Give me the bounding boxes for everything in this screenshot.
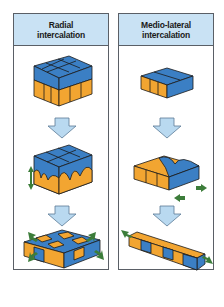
panel-header: Medio-lateralintercalation	[119, 14, 213, 46]
two-row-block-icon	[141, 68, 193, 98]
radial-intercalation-panel: Radialintercalation	[13, 13, 109, 270]
two-layer-block-icon	[34, 56, 92, 106]
down-arrow-icon	[48, 118, 76, 138]
panel-body	[14, 46, 108, 269]
green-arrow-icon	[28, 166, 34, 190]
panel-body	[119, 46, 213, 269]
title-line2: intercalation	[37, 30, 85, 40]
title-line1: Radial	[49, 20, 73, 30]
interdigitating-block-icon	[134, 156, 199, 190]
radial-diagram	[14, 46, 110, 271]
medio-lateral-intercalation-panel: Medio-lateralintercalation	[118, 13, 214, 270]
elongated-row-icon	[129, 232, 205, 270]
title-line2: intercalation	[142, 30, 190, 40]
panel-header: Radialintercalation	[14, 14, 108, 46]
down-arrow-icon	[153, 118, 181, 138]
intercalating-block-icon	[34, 145, 92, 194]
title-line1: Medio-lateral	[141, 20, 191, 30]
medio-lateral-diagram	[119, 46, 215, 271]
down-arrow-icon	[48, 206, 76, 226]
down-arrow-icon	[153, 206, 181, 226]
mixed-monolayer-icon	[24, 230, 100, 268]
